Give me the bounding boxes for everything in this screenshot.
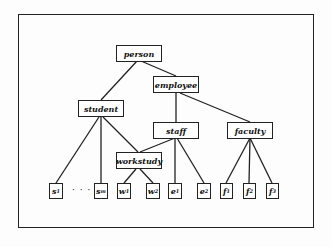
node-faculty: faculty [227, 122, 273, 139]
leaf-sm: sm [94, 183, 108, 199]
leaf-e2: e2 [197, 183, 211, 199]
node-label: employee [155, 80, 197, 90]
leaf-base: w [148, 186, 155, 196]
leaf-sub: 1 [176, 188, 179, 194]
leaf-sub: 1 [126, 188, 129, 194]
node-workstudy: workstudy [116, 152, 162, 169]
leaf-sub: 1 [57, 188, 60, 194]
leaf-sub: 2 [205, 188, 208, 194]
leaf-e1: e1 [168, 183, 182, 199]
node-label: staff [166, 126, 186, 136]
leaf-sub: 2 [249, 188, 252, 194]
leaf-w2: w2 [146, 183, 160, 199]
leaf-sub: 3 [272, 188, 275, 194]
leaf-f2: f2 [243, 183, 256, 199]
node-employee: employee [153, 76, 199, 93]
node-label: workstudy [116, 156, 162, 166]
leaf-sub: m [101, 188, 106, 194]
leaf-base: w [119, 186, 126, 196]
leaf-f1: f1 [220, 183, 233, 199]
node-label: person [124, 49, 155, 59]
leaf-s1: s1 [49, 183, 63, 199]
node-label: faculty [235, 126, 266, 136]
node-staff: staff [153, 122, 199, 139]
leaf-w1: w1 [117, 183, 131, 199]
node-student: student [78, 100, 124, 117]
leaf-sub: 1 [226, 188, 229, 194]
node-person: person [116, 45, 162, 62]
ellipsis: · · · [72, 185, 91, 195]
node-label: student [84, 104, 118, 114]
leaf-f3: f3 [266, 183, 279, 199]
leaf-sub: 2 [155, 188, 158, 194]
